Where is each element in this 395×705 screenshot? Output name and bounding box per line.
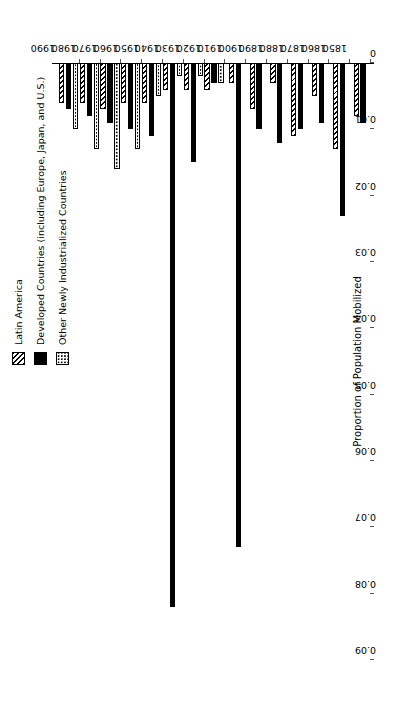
bar [156,63,161,96]
bar-group [141,63,162,136]
solid-swatch-icon [34,352,47,365]
bar [142,63,147,103]
bar [94,63,99,149]
bar [135,63,140,149]
bar [100,63,105,109]
bar [270,63,275,83]
bar [229,63,234,83]
bar [319,63,324,123]
category-label: 1960 [94,43,118,54]
bar-group [328,63,349,216]
category-label: 1860 [302,43,326,54]
bar [256,63,261,129]
bar [163,63,168,90]
bar-group [204,63,225,90]
bar-group [79,63,100,149]
bar [291,63,296,136]
category-tick [79,59,80,63]
bar [149,63,154,136]
bar-group [266,63,287,143]
bar [333,63,338,149]
category-label: 1910 [198,43,222,54]
value-tick [370,593,374,594]
bar [218,63,223,83]
value-tick [370,394,374,395]
legend-item-label: Latin America [13,279,24,345]
bar-group [287,63,308,136]
bar [298,63,303,129]
category-label: 1920 [177,43,201,54]
value-tick [370,195,374,196]
bar-group [162,63,183,607]
bar-group [308,63,329,123]
category-tick [245,59,246,63]
bar-group [183,63,204,163]
bar [191,63,196,163]
category-tick [162,59,163,63]
bar [80,63,85,103]
bar [184,63,189,90]
bar [277,63,282,143]
category-label: 1930 [156,43,180,54]
value-axis-title: Proportion of Population Mobilized [352,63,363,660]
rotated-figure-wrapper: Latin America Developed Countries (inclu… [0,0,395,705]
value-tick [370,128,374,129]
category-tick [370,59,371,63]
bar-group [120,63,141,149]
bar [312,63,317,96]
bar-group [224,63,245,547]
legend-item-label: Developed Countries (including Europe, J… [35,77,46,345]
value-tick [370,526,374,527]
bar [87,63,92,116]
bar [59,63,64,103]
value-tick [370,261,374,262]
bar [340,63,345,216]
value-tick [370,460,374,461]
hatch-swatch-icon [12,352,25,365]
bar [250,63,255,109]
bar [107,63,112,123]
bar [211,63,216,83]
category-label: 1950 [114,43,138,54]
category-tick [287,59,288,63]
category-tick [224,59,225,63]
category-tick [328,59,329,63]
bar [73,63,78,129]
category-tick [120,59,121,63]
value-tick [370,659,374,660]
bar [204,63,209,90]
bar-group [58,63,79,129]
bar [177,63,182,76]
bar [198,63,203,76]
bar [128,63,133,129]
bar [236,63,241,547]
category-tick [266,59,267,63]
chart-figure: Latin America Developed Countries (inclu… [0,0,395,705]
category-tick [204,59,205,63]
bar-group [245,63,266,129]
category-label: 1900 [218,43,242,54]
bar-group [100,63,121,169]
category-label: 1990 [31,43,55,54]
bar [66,63,71,109]
category-tick [141,59,142,63]
legend-item: Developed Countries (including Europe, J… [34,77,47,365]
value-tick [370,327,374,328]
bar [121,63,126,103]
value-tick-label: 0 [370,48,376,59]
category-label: 1880 [260,43,284,54]
plot-area: 00.010.020.030.040.050.060.070.080.09 18… [58,63,370,660]
bar [170,63,175,607]
category-label: 1980 [52,43,76,54]
category-tick [100,59,101,63]
category-label: 1850 [322,43,346,54]
category-tick [308,59,309,63]
category-tick [349,59,350,63]
category-tick [183,59,184,63]
category-label: 1870 [281,43,305,54]
legend-item: Latin America [12,77,25,365]
category-label: 1970 [73,43,97,54]
bar [114,63,119,169]
